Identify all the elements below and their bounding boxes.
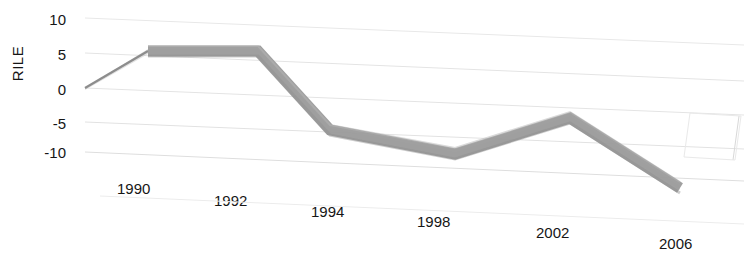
rile-line-chart: RILE 10 5 0 -5 -10 1990 1992 1994 1998 2… xyxy=(0,0,748,253)
floor-front-edge xyxy=(100,196,744,224)
series-line-rile xyxy=(85,46,680,193)
series-shadow-edge xyxy=(148,56,680,193)
right-wall-panel xyxy=(684,113,741,160)
series-ribbon-top xyxy=(85,49,680,190)
series-segment-lead xyxy=(85,51,148,88)
series-segment-main xyxy=(148,51,680,188)
gridline-0 xyxy=(85,88,744,115)
plot-area xyxy=(0,0,748,253)
gridlines xyxy=(85,18,744,181)
gridline-10 xyxy=(85,18,744,45)
series-highlight-edge xyxy=(148,46,680,182)
